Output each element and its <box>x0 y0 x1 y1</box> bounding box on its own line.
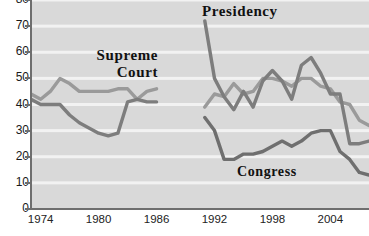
x-tick-label: 1986 <box>134 213 180 225</box>
series-lines <box>31 21 369 175</box>
y-tick-mark <box>25 25 31 27</box>
supreme-court-label-line2: Court <box>50 64 158 81</box>
y-tick-mark <box>25 104 31 106</box>
x-tick-label: 1998 <box>249 213 295 225</box>
x-tick-label: 1974 <box>18 213 64 225</box>
y-tick-mark <box>25 130 31 132</box>
gridline <box>31 181 369 184</box>
plot-svg <box>31 0 369 209</box>
y-tick-mark <box>25 182 31 184</box>
gridline <box>31 0 369 2</box>
y-tick-mark <box>25 208 31 210</box>
gridline <box>31 25 369 28</box>
y-tick-mark <box>25 77 31 79</box>
line-chart: 01020304050607080 1974198019861992199820… <box>0 0 369 236</box>
series-label-congress: Congress <box>237 164 297 180</box>
plot-area <box>31 0 369 209</box>
series-label-supreme-court: Supreme Court <box>50 47 158 81</box>
x-axis-line <box>30 208 369 210</box>
x-tick-label: 2004 <box>307 213 353 225</box>
supreme-court-label-line1: Supreme <box>50 47 158 64</box>
y-tick-mark <box>25 51 31 53</box>
gridline <box>31 103 369 106</box>
gridline <box>31 155 369 158</box>
series-line-supreme-court <box>31 78 157 99</box>
x-tick-label: 1992 <box>191 213 237 225</box>
x-tick-label: 1980 <box>76 213 122 225</box>
series-label-presidency: Presidency <box>202 3 278 20</box>
y-tick-mark <box>25 156 31 158</box>
y-tick-mark <box>25 0 31 1</box>
